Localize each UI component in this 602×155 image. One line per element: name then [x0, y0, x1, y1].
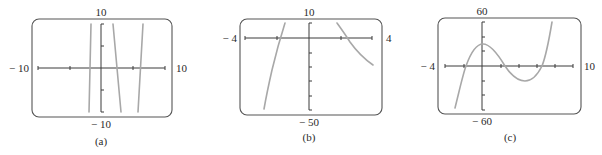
graph-panel-b: 10 − 50 − 4 4 (b) [223, 6, 392, 144]
x-max-label: 4 [386, 32, 392, 44]
y-min-label: − 50 [299, 116, 319, 128]
graph-panel-c: 60 − 60 − 4 10 (c) [421, 5, 596, 144]
curve-left-branch [264, 23, 285, 109]
y-max-label: 10 [304, 6, 316, 18]
y-min-label: − 10 [91, 118, 111, 130]
caption: (a) [95, 135, 108, 148]
x-min-label: − 10 [9, 62, 29, 74]
y-max-label: 60 [477, 5, 489, 17]
x-min-label: − 4 [223, 32, 238, 44]
x-max-label: 10 [584, 60, 596, 72]
y-min-label: − 60 [472, 115, 492, 127]
y-max-label: 10 [96, 6, 108, 18]
caption: (c) [504, 131, 517, 144]
curve-right-branch [337, 23, 373, 65]
caption: (b) [303, 131, 316, 144]
x-max-label: 10 [176, 62, 188, 74]
graph-panel-a: 10 − 10 − 10 10 (a) [9, 6, 187, 148]
x-min-label: − 4 [421, 60, 436, 72]
curve-branch-1 [89, 24, 91, 112]
plot-curves [264, 23, 373, 109]
